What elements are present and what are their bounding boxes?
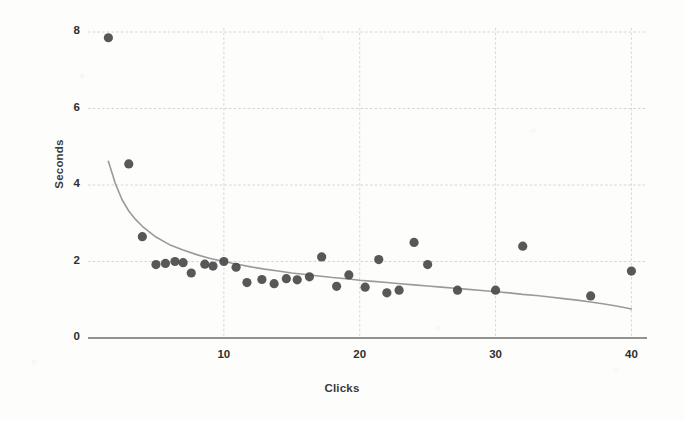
data-point (270, 279, 279, 288)
x-tick-label: 40 (611, 348, 651, 360)
data-point (361, 283, 370, 292)
data-point (332, 282, 341, 291)
data-point (200, 260, 209, 269)
y-tick-label: 2 (54, 254, 80, 266)
y-tick-label: 0 (54, 330, 80, 342)
data-point (219, 257, 228, 266)
data-point (317, 252, 326, 261)
data-point (187, 268, 196, 277)
x-axis-title: Clicks (0, 382, 684, 394)
data-point (627, 266, 636, 275)
data-point (282, 274, 291, 283)
data-point (344, 270, 353, 279)
data-point (124, 159, 133, 168)
data-point (151, 260, 160, 269)
data-point (242, 278, 251, 287)
data-point (423, 260, 432, 269)
data-point (409, 238, 418, 247)
data-point (491, 286, 500, 295)
data-point (382, 288, 391, 297)
data-point (179, 258, 188, 267)
trend-curve (108, 161, 631, 309)
y-axis-title: Seconds (53, 119, 65, 209)
scatter-chart: 02468 10203040 Seconds Clicks (0, 0, 684, 421)
x-tick-label: 10 (204, 348, 244, 360)
data-points (104, 33, 636, 300)
gridlines (88, 28, 647, 338)
data-point (374, 255, 383, 264)
data-point (231, 263, 240, 272)
data-point (293, 275, 302, 284)
data-point (453, 286, 462, 295)
x-tick-label: 20 (340, 348, 380, 360)
data-point (208, 261, 217, 270)
fitted-curve (108, 161, 631, 309)
data-point (257, 275, 266, 284)
data-point (305, 272, 314, 281)
data-point (161, 259, 170, 268)
data-point (104, 33, 113, 42)
data-point (518, 242, 527, 251)
y-tick-label: 8 (54, 24, 80, 36)
x-tick-label: 30 (476, 348, 516, 360)
data-point (586, 291, 595, 300)
data-point (138, 232, 147, 241)
data-point (170, 257, 179, 266)
y-tick-label: 6 (54, 101, 80, 113)
data-point (395, 286, 404, 295)
